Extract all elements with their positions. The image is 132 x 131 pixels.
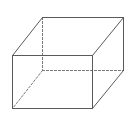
hidden-edges: [13, 18, 124, 109]
hidden-edge-back_bottom_left-to-front_bottom_left: [13, 71, 43, 109]
edge-front_bottom_right-to-back_bottom_right: [93, 71, 124, 109]
edge-front_top_left-to-back_top_left: [13, 18, 43, 56]
visible-edges: [13, 18, 124, 109]
edge-front_top_right-to-back_top_right: [93, 18, 124, 56]
cuboid-diagram: [0, 0, 132, 131]
cuboid-figure: [0, 0, 132, 131]
